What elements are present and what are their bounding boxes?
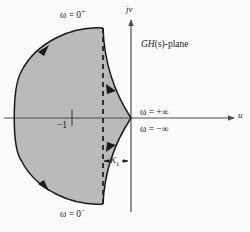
omega-zero-minus-text: ω = 0: [60, 209, 81, 219]
k1-label: K1: [110, 156, 119, 167]
omega-zero-plus-label: ω = 0+: [60, 9, 85, 21]
omega-plus-infinity-label: ω = +∞: [140, 108, 169, 118]
u-axis-label: u: [238, 111, 243, 120]
jv-axis-label: jv: [126, 5, 133, 14]
omega-zero-minus-label: ω = 0−: [60, 208, 85, 220]
shaded-region: [14, 28, 131, 204]
omega-zero-plus-text: ω = 0: [60, 10, 81, 20]
omega-minus-infinity-label: ω = −∞: [140, 125, 169, 135]
plot-canvas: [0, 0, 250, 232]
minus-one-label: −1: [57, 121, 67, 131]
plane-label-rest: (s)-plane: [155, 39, 189, 49]
omega-zero-plus-superscript: +: [81, 8, 85, 16]
k1-label-subscript: 1: [116, 160, 119, 167]
plane-label: GH(s)-plane: [141, 40, 189, 50]
nyquist-plot-figure: GH(s)-plane ω = 0+ ω = 0− ω = +∞ ω = −∞ …: [0, 0, 250, 232]
jv-axis-label-v: v: [129, 4, 133, 14]
omega-zero-minus-superscript: −: [81, 207, 85, 215]
plane-label-italic-part: GH: [141, 39, 155, 49]
